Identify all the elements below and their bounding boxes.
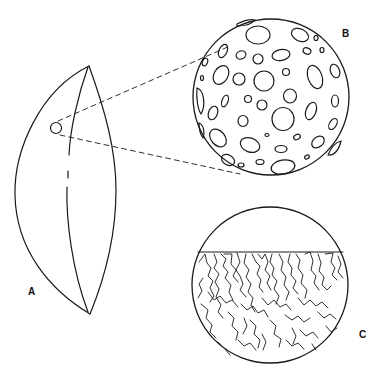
label-c: C [359,329,366,340]
pitted-sphere-b [193,19,349,176]
sample-spot-circle [51,123,62,134]
lens-body-a [15,66,116,314]
leader-lines [58,46,240,174]
cross-section-c [192,207,348,363]
diagram-canvas [0,0,369,373]
label-b: B [342,28,349,39]
label-a: A [28,286,35,297]
